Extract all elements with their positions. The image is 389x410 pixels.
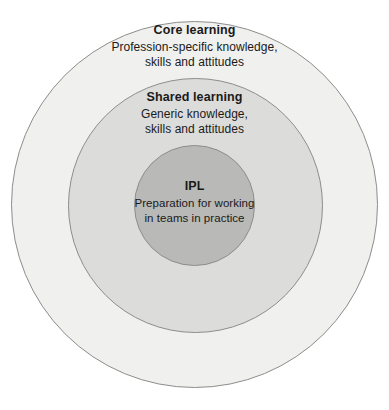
core-learning-line-2: skills and attitudes (0, 55, 389, 71)
ipl-title: IPL (0, 178, 389, 195)
shared-learning-line-2: skills and attitudes (0, 122, 389, 138)
ipl-line-2: in teams in practice (0, 211, 389, 226)
core-learning-line-1: Profession-specific knowledge, (0, 40, 389, 56)
core-learning-title: Core learning (0, 22, 389, 39)
concentric-circles-diagram: Core learning Profession-specific knowle… (0, 0, 389, 410)
label-core-learning: Core learning Profession-specific knowle… (0, 22, 389, 71)
shared-learning-title: Shared learning (0, 89, 389, 106)
shared-learning-line-1: Generic knowledge, (0, 107, 389, 123)
label-ipl: IPL Preparation for working in teams in … (0, 178, 389, 226)
label-shared-learning: Shared learning Generic knowledge, skill… (0, 89, 389, 138)
ipl-line-1: Preparation for working (0, 196, 389, 211)
